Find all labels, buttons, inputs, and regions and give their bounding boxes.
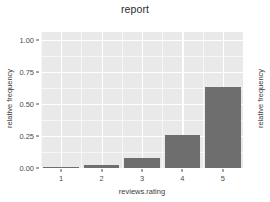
y-axis-tick-label: 0.75 xyxy=(10,67,34,76)
x-axis-tick-mark xyxy=(101,169,102,172)
y-axis-tick-mark xyxy=(36,135,39,136)
bar xyxy=(205,87,241,168)
y-axis-title-right: relative frequency xyxy=(256,54,265,144)
x-axis-tick-label: 3 xyxy=(140,174,144,183)
x-axis-tick-mark xyxy=(182,169,183,172)
x-axis-tick-label: 4 xyxy=(180,174,184,183)
y-axis-tick-mark xyxy=(36,168,39,169)
y-axis-tick-labels: 0.000.250.500.751.00 xyxy=(10,0,34,202)
x-axis-tick-mark xyxy=(142,169,143,172)
bar xyxy=(43,167,79,168)
plot-panel xyxy=(41,32,243,168)
gridline-major-vertical xyxy=(102,32,103,168)
bar xyxy=(165,135,201,168)
gridline-minor-vertical xyxy=(122,32,123,168)
x-axis-tick-mark xyxy=(222,169,223,172)
x-axis-tick-label: 2 xyxy=(100,174,104,183)
x-axis-tick-label: 5 xyxy=(221,174,225,183)
y-axis-tick-label: 0.00 xyxy=(10,164,34,173)
gridline-minor-vertical xyxy=(203,32,204,168)
y-axis-tick-label: 1.00 xyxy=(10,35,34,44)
bar xyxy=(124,158,160,168)
x-axis-tick-label: 1 xyxy=(59,174,63,183)
y-axis-tick-label: 0.50 xyxy=(10,99,34,108)
x-axis-title: reviews.rating xyxy=(41,187,243,196)
chart-container: report relative frequency relative frequ… xyxy=(0,0,270,202)
gridline-minor-vertical xyxy=(162,32,163,168)
chart-title: report xyxy=(0,3,270,15)
y-axis-tick-mark xyxy=(36,103,39,104)
bar xyxy=(84,165,120,168)
gridline-minor-vertical xyxy=(41,32,42,168)
gridline-minor-vertical xyxy=(81,32,82,168)
gridline-major-vertical xyxy=(61,32,62,168)
y-axis-tick-mark xyxy=(36,71,39,72)
y-axis-tick-mark xyxy=(36,39,39,40)
gridline-major-vertical xyxy=(142,32,143,168)
x-axis-tick-mark xyxy=(61,169,62,172)
y-axis-tick-label: 0.25 xyxy=(10,131,34,140)
